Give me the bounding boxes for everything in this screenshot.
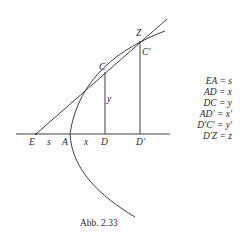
- parabola-curve: [70, 31, 165, 217]
- label-point-z: Z: [136, 28, 142, 38]
- legend-line-5: D′C′ = y′: [196, 120, 233, 130]
- legend-line-3: DC = y: [202, 98, 232, 108]
- label-segment-x: x: [83, 137, 89, 147]
- legend-line-6: D′Z = z: [202, 131, 232, 141]
- label-point-d: D: [100, 137, 108, 147]
- parabola-tangent-diagram: E s A x D D′ C y Z C′ EA = s AD = x DC =…: [0, 0, 243, 243]
- label-segment-y: y: [106, 94, 112, 104]
- figure-caption: Abb. 2.33: [80, 218, 118, 228]
- label-point-a: A: [61, 137, 68, 147]
- legend-line-4: AD′ = x′: [199, 109, 233, 119]
- label-point-e: E: [28, 137, 35, 147]
- legend-line-1: EA = s: [205, 76, 233, 86]
- label-point-d-prime: D′: [135, 137, 146, 147]
- legend: EA = s AD = x DC = y AD′ = x′ D′C′ = y′ …: [196, 76, 233, 141]
- label-point-c: C: [99, 62, 106, 72]
- label-point-c-prime: C′: [142, 47, 151, 57]
- point-e-marker: [35, 133, 37, 135]
- label-segment-s: s: [47, 137, 51, 147]
- tangent-line: [36, 19, 167, 134]
- legend-line-2: AD = x: [203, 87, 233, 97]
